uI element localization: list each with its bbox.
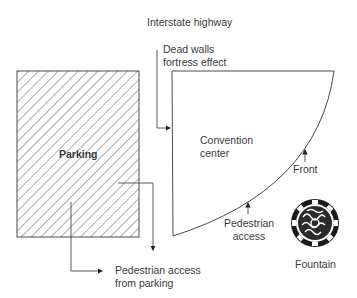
front-label: Front (293, 163, 318, 176)
dead-walls-label-line2: fortress effect (163, 56, 226, 69)
pedestrian-access-label-line1: Pedestrian (224, 217, 274, 230)
parking-label: Parking (59, 148, 98, 161)
pedestrian-from-parking-label-line2: from parking (115, 277, 173, 290)
pedestrian-from-parking-label-line1: Pedestrian access (115, 264, 201, 277)
dead-walls-label-line1: Dead walls (163, 43, 214, 56)
highway-label: Interstate highway (147, 16, 232, 29)
convention-center-label-line2: center (200, 147, 229, 160)
pedestrian-access-label-line2: access (224, 230, 274, 243)
convention-center-label-line1: Convention (200, 134, 253, 147)
fountain-label: Fountain (295, 258, 336, 271)
fountain-icon (291, 199, 339, 247)
